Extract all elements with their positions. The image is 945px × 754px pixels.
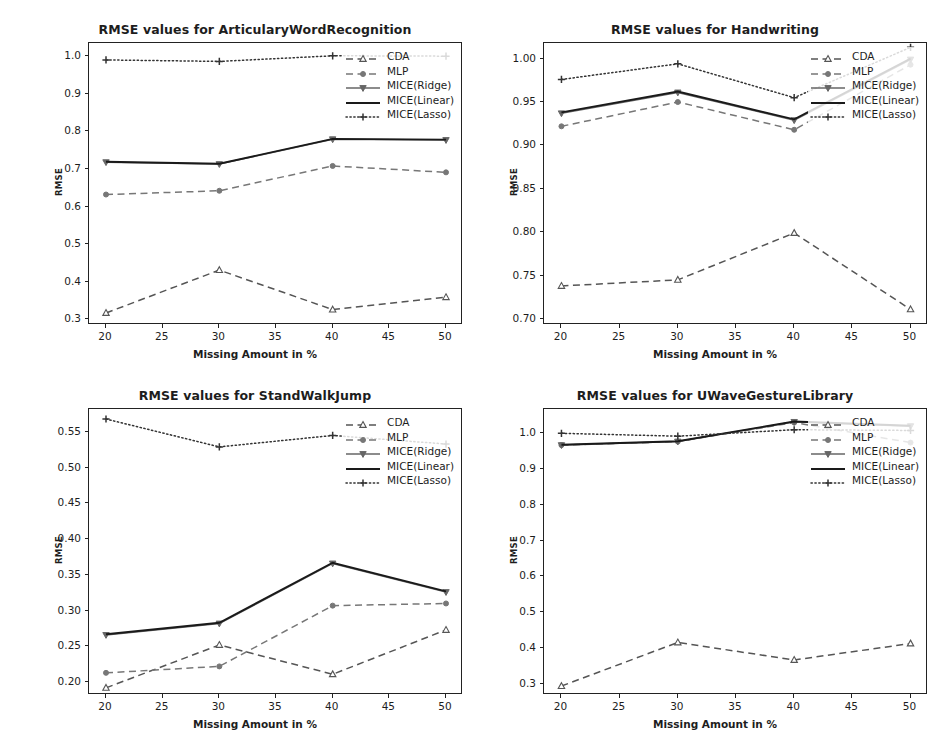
legend-item-mlp[interactable]: MLP [810, 430, 919, 445]
y-tick-label: 1.0 [495, 426, 536, 438]
x-tick-label: 50 [903, 700, 916, 712]
plot-area-uwave: CDAMLPMICE(Ridge)MICE(Linear)MICE(Lasso) [543, 408, 927, 694]
x-tick-mark [162, 694, 163, 698]
chart-panel-articulary: RMSE values for ArticularyWordRecognitio… [40, 22, 470, 370]
legend-swatch-icon [345, 431, 381, 443]
legend-item-miceridge[interactable]: MICE(Ridge) [810, 444, 919, 459]
legend-item-micelinear[interactable]: MICE(Linear) [810, 459, 919, 474]
x-tick-mark [332, 324, 333, 328]
legend-swatch-icon [810, 108, 846, 120]
x-tick-mark [793, 694, 794, 698]
y-tick-mark [540, 432, 544, 433]
x-tick-label: 40 [786, 330, 799, 342]
y-tick-mark [85, 681, 89, 682]
chart-title-handwriting: RMSE values for Handwriting [495, 22, 935, 37]
x-tick-label: 20 [554, 700, 567, 712]
x-tick-mark [910, 694, 911, 698]
y-tick-label: 0.5 [495, 605, 536, 617]
y-tick-label: 0.6 [495, 569, 536, 581]
legend-item-micelasso[interactable]: MICE(Lasso) [810, 107, 919, 122]
legend-label: MICE(Linear) [381, 460, 454, 472]
legend-label: MICE(Lasso) [846, 474, 916, 486]
legend-label: CDA [381, 416, 409, 428]
x-tick-mark [218, 324, 219, 328]
y-tick-mark [85, 243, 89, 244]
legend-item-mlp[interactable]: MLP [810, 64, 919, 79]
legend-item-micelasso[interactable]: MICE(Lasso) [345, 107, 454, 122]
y-tick-label: 0.3 [40, 312, 81, 324]
legend-label: MICE(Linear) [846, 94, 919, 106]
x-tick-mark [275, 694, 276, 698]
legend-item-micelasso[interactable]: MICE(Lasso) [345, 473, 454, 488]
legend-articulary: CDAMLPMICE(Ridge)MICE(Linear)MICE(Lasso) [343, 47, 457, 124]
legend-swatch-icon [345, 474, 381, 486]
y-tick-mark [540, 101, 544, 102]
y-tick-label: 0.20 [40, 675, 81, 687]
legend-item-cda[interactable]: CDA [345, 49, 454, 64]
legend-item-miceridge[interactable]: MICE(Ridge) [345, 444, 454, 459]
y-tick-mark [540, 647, 544, 648]
y-tick-label: 0.9 [495, 462, 536, 474]
legend-label: MICE(Ridge) [381, 445, 451, 457]
x-tick-label: 45 [845, 330, 858, 342]
legend-item-miceridge[interactable]: MICE(Ridge) [810, 78, 919, 93]
x-tick-label: 45 [382, 330, 395, 342]
series-cda [558, 230, 913, 312]
y-tick-label: 0.45 [40, 496, 81, 508]
legend-item-cda[interactable]: CDA [810, 49, 919, 64]
series-micelinear [106, 139, 446, 164]
x-axis-label: Missing Amount in % [495, 718, 935, 730]
legend-item-micelinear[interactable]: MICE(Linear) [345, 93, 454, 108]
chart-title-uwave: RMSE values for UWaveGestureLibrary [495, 388, 935, 403]
x-tick-mark [619, 694, 620, 698]
y-tick-mark [85, 645, 89, 646]
legend-swatch-icon [810, 65, 846, 77]
series-mlp [104, 163, 449, 197]
x-tick-label: 50 [438, 700, 451, 712]
x-axis-label: Missing Amount in % [40, 718, 470, 730]
x-tick-label: 30 [212, 700, 225, 712]
x-tick-label: 50 [438, 330, 451, 342]
legend-label: CDA [846, 416, 874, 428]
y-tick-mark [540, 58, 544, 59]
legend-label: MLP [381, 65, 408, 77]
x-tick-label: 20 [98, 700, 111, 712]
legend-swatch-icon [810, 445, 846, 457]
y-tick-mark [85, 206, 89, 207]
legend-item-miceridge[interactable]: MICE(Ridge) [345, 78, 454, 93]
legend-swatch-icon [810, 50, 846, 62]
legend-item-cda[interactable]: CDA [810, 415, 919, 430]
chart-panel-standwalkjump: RMSE values for StandWalkJumpCDAMLPMICE(… [40, 388, 470, 740]
y-tick-label: 0.50 [40, 461, 81, 473]
y-tick-label: 1.0 [40, 49, 81, 61]
x-tick-mark [105, 694, 106, 698]
chart-title-articulary: RMSE values for ArticularyWordRecognitio… [40, 22, 470, 37]
legend-swatch-icon [345, 416, 381, 428]
legend-item-micelasso[interactable]: MICE(Lasso) [810, 473, 919, 488]
y-tick-label: 0.3 [495, 677, 536, 689]
x-tick-label: 35 [268, 330, 281, 342]
x-tick-mark [910, 324, 911, 328]
x-tick-mark [851, 694, 852, 698]
legend-item-micelinear[interactable]: MICE(Linear) [810, 93, 919, 108]
legend-item-mlp[interactable]: MLP [345, 430, 454, 445]
x-tick-mark [275, 324, 276, 328]
legend-item-cda[interactable]: CDA [345, 415, 454, 430]
x-tick-mark [445, 324, 446, 328]
x-tick-label: 45 [845, 700, 858, 712]
y-tick-mark [540, 504, 544, 505]
legend-item-micelinear[interactable]: MICE(Linear) [345, 459, 454, 474]
legend-swatch-icon [345, 445, 381, 457]
x-tick-label: 30 [212, 330, 225, 342]
y-axis-label: RMSE [509, 167, 519, 197]
x-axis-label: Missing Amount in % [40, 348, 470, 360]
x-tick-mark [677, 324, 678, 328]
legend-item-mlp[interactable]: MLP [345, 64, 454, 79]
plot-area-standwalkjump: CDAMLPMICE(Ridge)MICE(Linear)MICE(Lasso) [88, 408, 462, 694]
y-tick-mark [85, 130, 89, 131]
y-tick-mark [85, 502, 89, 503]
y-tick-mark [540, 144, 544, 145]
legend-swatch-icon [345, 460, 381, 472]
y-tick-label: 0.80 [495, 225, 536, 237]
x-tick-label: 45 [382, 700, 395, 712]
